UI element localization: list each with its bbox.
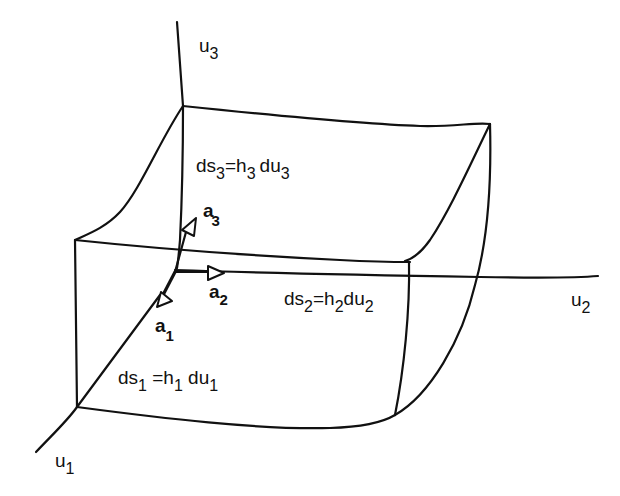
a1-label: a1 [155,315,174,344]
a2-arrowhead-icon [208,266,224,280]
front-right-edge [395,262,409,415]
u1-axis-label: u1 [55,450,75,477]
ds1-equation: ds1 =h1 du1 [118,367,218,394]
ds3-equation: ds3=h3du3 [196,155,290,182]
a3-arrowhead-icon [182,218,196,236]
a3-label: a3 [203,200,220,229]
top-right-edge [405,124,490,261]
u2-axis-line [175,270,598,278]
top-back-edge [183,106,490,126]
front-top-edge [75,240,410,262]
curvilinear-volume-element-diagram: u3 u2 u1 a3 a2 a1 ds3=h3du3 ds2=h2du2 ds… [0,0,620,496]
a2-label: a2 [209,281,228,308]
front-left-edge [75,240,77,407]
u3-axis-label: u3 [199,35,219,62]
top-left-edge [75,106,183,240]
ds2-equation: ds2=h2du2 [284,288,374,315]
a1-vector-shaft [163,272,175,295]
u2-axis-label: u2 [571,289,591,316]
front-bottom-edge [77,407,395,428]
axis-labels: u3 u2 u1 [55,35,591,477]
u1-axis-line [36,295,160,452]
u3-axis-line [177,22,183,106]
